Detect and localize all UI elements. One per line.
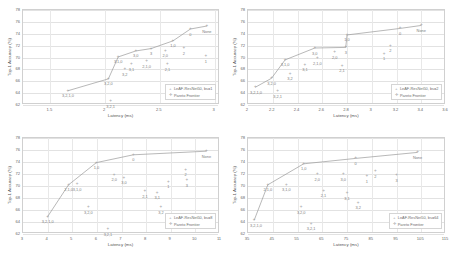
data-point (150, 48, 152, 50)
legend-label: Pareto Frontier (174, 93, 200, 98)
x-axis-tick: 3 (21, 236, 23, 241)
plus-marker-icon: + (168, 216, 172, 220)
data-point-label: 3 (150, 51, 152, 56)
data-point-label: 3,2,0 (84, 210, 93, 215)
data-point (135, 50, 137, 52)
data-point (314, 47, 316, 49)
data-point (67, 184, 69, 186)
y-axis-tick: 66 (15, 207, 20, 212)
plus-marker-icon: + (168, 87, 172, 91)
data-point-label: 3,2,1 (273, 94, 282, 99)
data-point (107, 228, 109, 230)
data-point-label: 1 (366, 179, 368, 184)
data-point (113, 174, 115, 176)
legend-label: Pareto Frontier (400, 93, 426, 98)
chart-legend: +LeAF-ResNet50, bs=8✛Pareto Frontier (165, 213, 216, 229)
line-marker-icon: ✛ (394, 93, 398, 97)
chart-legend: +LeAF-ResNet50, bs=1✛Pareto Frontier (165, 84, 216, 100)
data-point-label: 2,1 (321, 193, 326, 198)
data-point (357, 202, 359, 204)
x-axis-tick: 9 (169, 236, 171, 241)
data-point-label: 3,1,0 (282, 187, 291, 192)
data-point-label: None (417, 28, 426, 33)
data-point (355, 157, 357, 159)
legend-item-series: +LeAF-ResNet50, bs=2 (394, 86, 438, 91)
data-point (132, 154, 134, 156)
y-axis-tick: 72 (240, 42, 245, 47)
y-axis-tick: 74 (240, 30, 245, 35)
data-point (156, 192, 158, 194)
data-point (303, 163, 305, 165)
data-point-label: 1,0 (170, 43, 175, 48)
legend-item-pareto: ✛Pareto Frontier (168, 93, 212, 98)
y-axis-tick: 64 (240, 90, 245, 95)
data-point-label: 2,1,0 (263, 187, 272, 192)
data-point (300, 206, 302, 208)
data-point (107, 78, 109, 80)
y-axis-tick: 74 (240, 159, 245, 164)
y-axis-tick: 72 (15, 171, 20, 176)
data-point (253, 219, 255, 221)
y-axis-tick: 70 (240, 54, 245, 59)
x-axis-tick: 55 (294, 236, 299, 241)
data-point-label: 1,0 (344, 37, 349, 42)
data-point (399, 27, 401, 29)
data-point (285, 184, 287, 186)
x-axis-tick: 2.2 (269, 107, 275, 112)
data-point-label: 2,1,0 (313, 61, 322, 66)
x-axis-tick: 3.4 (417, 107, 423, 112)
x-axis-tick: 6 (95, 236, 97, 241)
data-point-label: 3,2 (287, 76, 292, 81)
data-point (206, 25, 208, 27)
y-axis-tick: 78 (15, 7, 20, 12)
y-axis-tick: 72 (240, 171, 245, 176)
legend-item-pareto: ✛Pareto Frontier (394, 93, 438, 98)
data-point-label: 0 (189, 32, 191, 37)
data-point-label: None (413, 155, 422, 160)
data-point-label: 3,0 (133, 53, 138, 58)
data-point (374, 170, 376, 172)
data-point (172, 40, 174, 42)
legend-item-pareto: ✛Pareto Frontier (392, 222, 438, 227)
data-point-label: 1,0 (301, 166, 306, 171)
data-point (184, 169, 186, 171)
legend-label: LeAF-ResNet50, bs=8 (174, 215, 213, 220)
y-axis-label: Top-1 Accuracy (%) (232, 166, 237, 204)
x-axis-tick: 3.2 (393, 107, 399, 112)
data-point (346, 192, 348, 194)
data-point-label: 2,1 (142, 194, 147, 199)
data-point (124, 68, 126, 70)
legend-label: LeAF-ResNet50, bs=1 (174, 86, 213, 91)
y-axis-tick: 76 (240, 147, 245, 152)
data-point (186, 179, 188, 181)
data-point (144, 190, 146, 192)
y-axis-tick: 70 (15, 183, 20, 188)
data-point (322, 190, 324, 192)
data-point-label: 3,1,0 (73, 187, 82, 192)
data-point-label: 2,0 (111, 177, 116, 182)
data-point (130, 63, 132, 65)
data-point-label: 3,1 (344, 196, 349, 201)
x-axis-tick: 2.5 (156, 107, 162, 112)
data-point-label: 3 (345, 50, 347, 55)
legend-label: Pareto Frontier (398, 222, 424, 227)
data-point-label: 2 (374, 174, 376, 179)
chart-panel-bs2: 3,2,1,03,2,03,2,13,1,03,23,13,02,1,02,02… (225, 0, 451, 128)
x-axis-tick: 10 (192, 236, 197, 241)
data-point-label: 3,1,0 (281, 62, 290, 67)
data-point (334, 51, 336, 53)
x-axis-label: Latency (ms) (333, 113, 358, 118)
data-point (167, 181, 169, 183)
data-point (342, 173, 344, 175)
data-point-label: 1 (383, 56, 385, 61)
y-axis-tick: 78 (240, 135, 245, 140)
data-point-label: 3,2,1 (307, 226, 316, 231)
legend-label: LeAF-ResNet50, bs=64 (398, 215, 439, 220)
data-point (277, 90, 279, 92)
x-axis-tick: 2.6 (318, 107, 324, 112)
data-point-label: 3,2,1,0 (250, 90, 262, 95)
x-axis-tick: 2.4 (294, 107, 300, 112)
y-axis-tick: 70 (15, 54, 20, 59)
chart-legend: +LeAF-ResNet50, bs=64✛Pareto Frontier (389, 213, 442, 229)
data-point (289, 72, 291, 74)
